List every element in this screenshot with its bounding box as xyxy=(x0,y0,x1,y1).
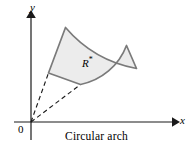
y-axis-label: y xyxy=(30,2,35,13)
figure-caption: Circular arch xyxy=(0,130,193,142)
radial-dashed-upper xyxy=(31,73,49,122)
circular-arch-figure: y x 0 R* Circular arch xyxy=(0,0,193,156)
region-label: R* xyxy=(82,58,93,69)
region-label-text: R xyxy=(82,57,89,69)
radial-dashed-lower xyxy=(31,85,81,123)
x-axis-arrowhead-icon xyxy=(172,117,180,127)
region-label-superscript: * xyxy=(89,55,93,64)
x-axis-label: x xyxy=(180,115,185,126)
